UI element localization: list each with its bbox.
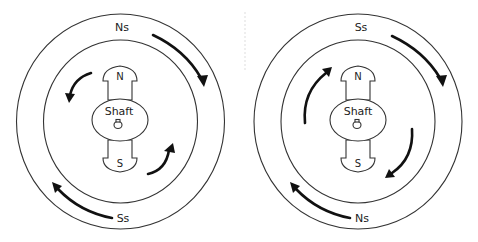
stator-rotation-arrow-top [392,36,440,78]
rotor-south-label: S [117,158,123,169]
shaft-hole-icon [114,122,122,129]
rotor-south-label: S [355,158,361,169]
arrowhead-icon [436,75,447,87]
rotor: N S Shaft [92,66,148,172]
stator-top-label: Ns [115,21,129,34]
shaft-label: Shaft [105,105,134,118]
right-motor-diagram: Ss Ns N S Shaft [254,14,462,229]
motor-diagrams: Ns Ss N S Shaft Ss Ns [0,0,478,242]
rotor-rotation-arrow-right [392,129,412,173]
arrowhead-icon [197,75,208,87]
rotor-rotation-arrow-top [70,73,91,95]
arrowhead-icon [164,143,175,153]
stator-bottom-label: Ss [117,212,130,225]
rotor-rotation-arrow-left [305,73,326,123]
rotor-rotation-arrow-bottom [148,150,169,174]
shaft-label: Shaft [344,105,373,118]
rotor: N S Shaft [330,66,386,172]
arrowhead-icon [65,93,75,103]
rotor-north-label: N [116,71,123,82]
shaft-hole-icon [353,122,361,129]
left-motor-diagram: Ns Ss N S Shaft [17,14,225,229]
stator-top-label: Ss [355,21,368,34]
shaft-key-icon [116,120,120,123]
rotor-north-label: N [354,71,361,82]
stator-rotation-arrow-top [153,35,201,78]
shaft-key-icon [355,120,359,123]
stator-bottom-label: Ns [355,212,369,225]
